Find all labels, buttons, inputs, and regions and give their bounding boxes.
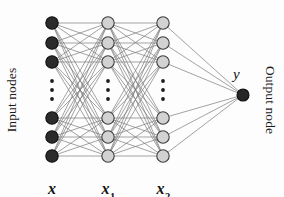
input-node: [46, 56, 58, 68]
ellipsis-dot: [50, 88, 54, 92]
hidden-node: [102, 150, 114, 162]
layer-caption-base: x: [48, 180, 56, 197]
input-node: [46, 17, 58, 29]
edge-to-output: [163, 95, 243, 118]
ellipsis-dot: [106, 79, 110, 83]
input-node: [46, 37, 58, 49]
hidden-node: [102, 112, 114, 124]
hidden-node: [157, 17, 169, 29]
layer-caption-base: x: [156, 180, 164, 197]
ellipsis-dot: [106, 88, 110, 92]
layer-caption-x2: x2: [156, 180, 169, 197]
output-node: [237, 89, 249, 101]
layer-caption-x1: x1: [101, 180, 114, 197]
ellipsis-dot: [50, 97, 54, 101]
edge-to-output: [163, 23, 243, 95]
layer-caption-base: x: [101, 180, 109, 197]
ellipsis-dot: [161, 79, 165, 83]
network-graph: [0, 0, 284, 197]
edges-group: [52, 23, 243, 156]
ellipsis-dot: [161, 97, 165, 101]
hidden-node: [102, 17, 114, 29]
edge-to-output: [163, 95, 243, 156]
hidden-node: [157, 131, 169, 143]
hidden-node: [157, 37, 169, 49]
nodes-group: [46, 17, 249, 162]
input-nodes-label: Input nodes: [4, 60, 20, 140]
layer-caption-x: x: [48, 180, 56, 197]
hidden-node: [102, 37, 114, 49]
input-node: [46, 150, 58, 162]
hidden-node: [102, 56, 114, 68]
layer-caption-sub: 2: [165, 191, 170, 197]
hidden-node: [157, 56, 169, 68]
output-variable-label: y: [233, 66, 240, 83]
edge-to-output: [163, 62, 243, 95]
hidden-node: [102, 131, 114, 143]
neural-network-figure: Input nodes Output node y x x1 x2: [0, 0, 284, 197]
ellipsis-dot: [50, 79, 54, 83]
ellipsis-dot: [106, 97, 110, 101]
ellipsis-dot: [161, 88, 165, 92]
edge-to-output: [163, 95, 243, 137]
layer-caption-sub: 1: [110, 191, 115, 197]
input-node: [46, 131, 58, 143]
input-node: [46, 112, 58, 124]
hidden-node: [157, 150, 169, 162]
output-node-label: Output node: [262, 58, 278, 142]
edge-to-output: [163, 43, 243, 95]
hidden-node: [157, 112, 169, 124]
